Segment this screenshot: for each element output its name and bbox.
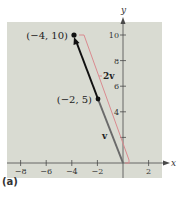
x-tick-label: −6 <box>40 167 52 176</box>
x-axis-label: x <box>171 158 176 168</box>
y-tick-label: 4 <box>114 108 119 117</box>
y-tick-label: 8 <box>114 57 119 66</box>
x-tick-label: −2 <box>92 167 104 176</box>
point-v-tip <box>96 97 101 102</box>
point-label-2v-tip: (−4, 10) <box>26 30 68 41</box>
y-axis-label: y <box>120 5 127 15</box>
vector-diagram: x −8−6−4−22 y 46810 (−4, 10) (−2, 5) 2v … <box>0 0 178 198</box>
y-axis-arrow-icon <box>121 17 126 24</box>
x-tick-label: −4 <box>66 167 78 176</box>
y-tick-label: 6 <box>114 82 119 91</box>
vector-label-v: v <box>101 131 108 141</box>
point-label-v-tip: (−2, 5) <box>57 94 92 105</box>
x-tick-label: 2 <box>146 167 151 176</box>
x-tick-label: −8 <box>15 167 27 176</box>
point-2v-tip <box>71 32 76 37</box>
x-axis-arrow-icon <box>163 161 170 166</box>
y-tick-label: 10 <box>109 31 119 40</box>
panel-label: (a) <box>2 176 18 187</box>
vector-label-2v: 2v <box>103 71 115 81</box>
